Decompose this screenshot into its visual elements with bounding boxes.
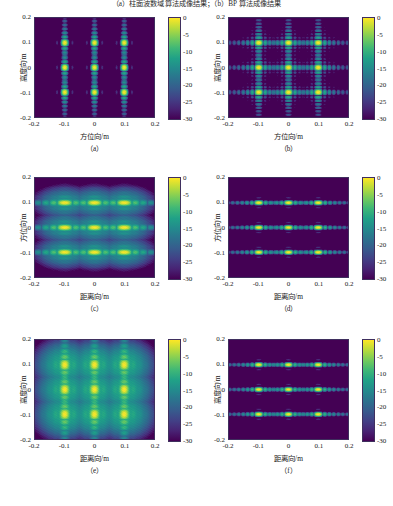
colorbar-tick-label: -30 <box>377 438 386 445</box>
y-tick-label: -0.2 <box>214 437 225 444</box>
y-tick-label: 0 <box>222 386 226 393</box>
colorbar-f: 0-5-10-15-20-25-30 <box>362 339 375 442</box>
y-axis-label-a: 高度向/m <box>17 53 28 82</box>
colorbar-a: 0-5-10-15-20-25-30 <box>168 17 181 120</box>
x-tick-label: 0 <box>93 443 97 450</box>
subplot-f: 高度向/m 距离向/m （f） -0.2-0.100.10.20.20.10-0… <box>196 331 393 506</box>
y-tick-label: -0.2 <box>214 275 225 282</box>
axes-a <box>34 17 155 118</box>
heatmap-canvas-c <box>35 178 154 277</box>
axes-b <box>228 17 349 118</box>
y-tick-label: -0.2 <box>20 115 31 122</box>
y-tick-label: 0.2 <box>22 14 31 21</box>
colorbar-b: 0-5-10-15-20-25-30 <box>362 17 375 120</box>
heatmap-canvas-b <box>229 18 348 117</box>
colorbar-gradient-e <box>169 340 180 441</box>
colorbar-tick-label: -25 <box>183 259 192 266</box>
colorbar-tick-label: -30 <box>183 438 192 445</box>
colorbar-tick-label: -20 <box>377 404 386 411</box>
x-tick-label: -0.1 <box>59 281 70 288</box>
colorbar-tick-label: -5 <box>377 353 383 360</box>
y-tick-label: 0.2 <box>216 336 225 343</box>
y-tick-label: 0.2 <box>22 336 31 343</box>
x-axis-label-e: 距离向/m <box>34 452 155 463</box>
colorbar-tick-label: -30 <box>377 116 386 123</box>
heatmap-canvas-e <box>35 340 154 439</box>
x-tick-label: 0.1 <box>120 281 129 288</box>
x-tick-label: -0.2 <box>222 281 233 288</box>
x-tick-label: -0.2 <box>28 281 39 288</box>
colorbar-tick-label: -10 <box>377 48 386 55</box>
x-tick-label: 0.1 <box>314 281 323 288</box>
x-tick-label: 0.1 <box>314 443 323 450</box>
x-tick-label: 0.1 <box>314 121 323 128</box>
figure-top-caption: （a）柱面波数域算法成像结果；（b）BP 算法成像结果 <box>0 0 393 8</box>
y-tick-label: -0.2 <box>214 115 225 122</box>
x-tick-label: -0.2 <box>222 443 233 450</box>
colorbar-tick-label: -20 <box>183 242 192 249</box>
x-tick-label: 0 <box>287 443 291 450</box>
colorbar-c: 0-5-10-15-20-25-30 <box>168 177 181 280</box>
colorbar-tick-label: -30 <box>183 116 192 123</box>
x-tick-label: 0.2 <box>151 443 160 450</box>
colorbar-tick-label: 0 <box>183 337 187 344</box>
y-tick-label: 0.1 <box>22 199 31 206</box>
x-axis-label-a: 方位向/m <box>34 130 155 141</box>
y-tick-label: 0.1 <box>22 39 31 46</box>
x-axis-label-f: 距离向/m <box>228 452 349 463</box>
colorbar-tick-label: -30 <box>377 276 386 283</box>
colorbar-tick-label: -20 <box>377 82 386 89</box>
colorbar-tick-label: -25 <box>377 421 386 428</box>
colorbar-tick-label: -5 <box>183 353 189 360</box>
subplot-a: 高度向/m 方位向/m （a） -0.2-0.100.10.20.20.10-0… <box>0 9 196 169</box>
heatmap-canvas-a <box>35 18 154 117</box>
axes-f <box>228 339 349 440</box>
axes-d <box>228 177 349 278</box>
x-tick-label: 0.2 <box>151 281 160 288</box>
colorbar-tick-label: -15 <box>183 225 192 232</box>
colorbar-gradient-d <box>363 178 374 279</box>
y-tick-label: -0.1 <box>20 249 31 256</box>
y-tick-label: -0.2 <box>20 275 31 282</box>
colorbar-gradient-b <box>363 18 374 119</box>
subplot-caption-e: （e） <box>34 465 155 475</box>
heatmap-canvas-d <box>229 178 348 277</box>
subplot-b: 高度向/m 方位向/m （b） -0.2-0.100.10.20.20.10-0… <box>196 9 393 169</box>
colorbar-tick-label: 0 <box>377 337 381 344</box>
x-axis-label-d: 距离向/m <box>228 290 349 301</box>
subplot-caption-c: （c） <box>34 303 155 313</box>
y-tick-label: 0.2 <box>216 174 225 181</box>
subplot-caption-a: （a） <box>34 143 155 153</box>
colorbar-tick-label: -25 <box>183 421 192 428</box>
colorbar-tick-label: -15 <box>183 387 192 394</box>
colorbar-tick-label: -5 <box>183 191 189 198</box>
y-tick-label: 0 <box>28 64 32 71</box>
subplot-caption-d: （d） <box>228 303 349 313</box>
axes-c <box>34 177 155 278</box>
x-tick-label: 0 <box>287 121 291 128</box>
colorbar-gradient-c <box>169 178 180 279</box>
colorbar-tick-label: -30 <box>183 276 192 283</box>
y-tick-label: -0.1 <box>20 89 31 96</box>
subplot-c: 方位向/m 距离向/m （c） -0.2-0.100.10.20.20.10-0… <box>0 169 196 331</box>
y-tick-label: -0.1 <box>20 411 31 418</box>
y-tick-label: 0 <box>222 224 226 231</box>
y-tick-label: 0.2 <box>22 174 31 181</box>
x-tick-label: 0.1 <box>120 443 129 450</box>
y-tick-label: -0.2 <box>20 437 31 444</box>
plot-area-c: 方位向/m 距离向/m （c） -0.2-0.100.10.20.20.10-0… <box>34 177 155 278</box>
x-tick-label: 0.2 <box>345 281 354 288</box>
colorbar-tick-label: -15 <box>377 65 386 72</box>
y-tick-label: -0.1 <box>214 411 225 418</box>
x-tick-label: 0.2 <box>345 121 354 128</box>
colorbar-tick-label: -25 <box>377 99 386 106</box>
y-tick-label: 0 <box>28 386 32 393</box>
colorbar-tick-label: -5 <box>377 191 383 198</box>
y-tick-label: 0 <box>28 224 32 231</box>
axes-e <box>34 339 155 440</box>
colorbar-tick-label: -20 <box>183 82 192 89</box>
colorbar-gradient-a <box>169 18 180 119</box>
y-tick-label: 0.1 <box>216 39 225 46</box>
y-axis-label-b: 高度向/m <box>211 53 222 82</box>
y-tick-label: -0.1 <box>214 249 225 256</box>
